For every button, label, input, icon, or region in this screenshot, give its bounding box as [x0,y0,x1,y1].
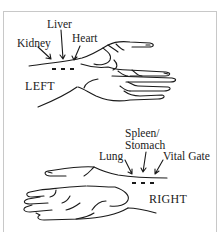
side-label-right: RIGHT [149,192,187,207]
lung-pulse-dot [132,182,136,184]
label-spleen: Spleen/ [125,127,160,139]
heart-pulse-dot [70,68,74,70]
heart-arrow [72,46,80,60]
label-kidney: Kidney [17,37,51,49]
label-liver: Liver [47,18,72,30]
label-vital-gate: Vital Gate [163,150,210,162]
spleen-stomach-arrow [141,152,146,172]
lung-arrow [125,160,132,174]
vital-gate-pulse-dot [150,182,154,184]
label-stomach: Stomach [125,139,165,151]
liver-pulse-dot [61,68,65,70]
vital-gate-arrow [155,160,163,174]
kidney-pulse-dot [52,68,56,70]
hand-illustrations [0,0,224,232]
label-heart: Heart [72,32,98,44]
spleen-stomach-pulse-dot [141,182,145,184]
left-hand-illustration [29,42,176,107]
side-label-left: LEFT [25,79,55,94]
right-hand-illustration [24,167,167,220]
liver-arrow [60,30,65,59]
label-lung: Lung [99,150,123,162]
